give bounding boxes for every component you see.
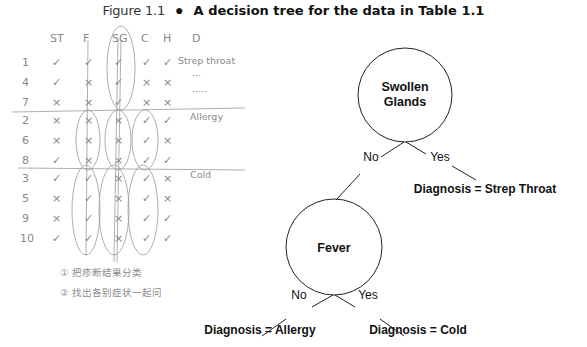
decision-tree-diagram: ST F SG C H D 1 4 7 2 6 8 3 5 9 10 ✓ ✓ ✓… bbox=[0, 0, 587, 347]
cell: × bbox=[52, 114, 61, 127]
root-edge-yes-label: Yes bbox=[430, 150, 450, 164]
row-id: 8 bbox=[22, 154, 29, 167]
cell: × bbox=[52, 134, 61, 147]
root-yes-edge-lower bbox=[452, 166, 476, 180]
cell: × bbox=[114, 232, 123, 245]
row-id: 5 bbox=[22, 192, 29, 205]
cell: ✓ bbox=[84, 232, 93, 245]
cell: ✓ bbox=[84, 172, 93, 185]
cell: ✓ bbox=[142, 232, 151, 245]
cell: × bbox=[114, 114, 123, 127]
cell: × bbox=[163, 172, 172, 185]
row-diagnosis: Allergy bbox=[190, 111, 223, 122]
note-line: ② 找出各别症状一起问 bbox=[60, 287, 162, 298]
root-yes-edge-upper bbox=[406, 142, 426, 154]
handwritten-headers: ST F SG C H D bbox=[50, 32, 200, 45]
cell: ✓ bbox=[114, 96, 123, 109]
cell: ✓ bbox=[142, 192, 151, 205]
cell: ✓ bbox=[163, 114, 172, 127]
cell: ✓ bbox=[142, 212, 151, 225]
cell: ✓ bbox=[142, 172, 151, 185]
cell: × bbox=[114, 212, 123, 225]
cell: × bbox=[142, 96, 151, 109]
header-st: ST bbox=[50, 32, 64, 45]
fever-yes-edge-upper bbox=[335, 295, 355, 307]
fever-no-edge-upper bbox=[312, 295, 333, 307]
cell: ✓ bbox=[142, 134, 151, 147]
root-node-label-line2: Glands bbox=[384, 95, 426, 109]
cell: ✓ bbox=[163, 212, 172, 225]
row-id: 3 bbox=[22, 172, 29, 185]
cell: × bbox=[163, 134, 172, 147]
root-no-edge-upper bbox=[381, 142, 404, 157]
cell: ✓ bbox=[52, 232, 61, 245]
root-edge-no-label: No bbox=[363, 150, 379, 164]
cell: ✓ bbox=[84, 56, 93, 69]
row-id: 2 bbox=[22, 114, 29, 127]
cell: × bbox=[163, 192, 172, 205]
header-sg: SG bbox=[112, 32, 128, 45]
row-id: 4 bbox=[22, 76, 29, 89]
cell: ✓ bbox=[142, 114, 151, 127]
leaf-cold: Diagnosis = Cold bbox=[369, 323, 467, 337]
fever-node-label: Fever bbox=[317, 241, 350, 255]
cell: × bbox=[52, 212, 61, 225]
leaf-strep-throat: Diagnosis = Strep Throat bbox=[414, 182, 556, 196]
cell: × bbox=[142, 76, 151, 89]
cell: × bbox=[84, 154, 93, 167]
row-diagnosis: ... bbox=[192, 67, 201, 78]
row-id: 7 bbox=[22, 96, 29, 109]
cell: × bbox=[84, 134, 93, 147]
handwritten-rows: 1 4 7 2 6 8 3 5 9 10 ✓ ✓ ✓ ✓ ✓ Strep thr… bbox=[20, 55, 235, 245]
cell: × bbox=[52, 192, 61, 205]
row-diagnosis: Strep throat bbox=[178, 55, 235, 66]
cell: ✓ bbox=[163, 232, 172, 245]
fever-edge-no-label: No bbox=[291, 288, 307, 302]
cell: × bbox=[163, 76, 172, 89]
header-d: D bbox=[192, 32, 200, 45]
cell: × bbox=[114, 172, 123, 185]
cell: ✓ bbox=[52, 56, 61, 69]
header-h: H bbox=[163, 32, 171, 45]
cell: × bbox=[84, 76, 93, 89]
row-diagnosis: ..... bbox=[192, 83, 207, 94]
leaf-allergy: Diagnosis = Allergy bbox=[204, 323, 316, 337]
cell: × bbox=[84, 96, 93, 109]
cell: ✓ bbox=[114, 56, 123, 69]
cell: × bbox=[114, 154, 123, 167]
row-id: 9 bbox=[22, 212, 29, 225]
cell: ✓ bbox=[163, 154, 172, 167]
header-c: C bbox=[141, 32, 149, 45]
cell: ✓ bbox=[52, 76, 61, 89]
cell: × bbox=[52, 96, 61, 109]
cell: × bbox=[114, 134, 123, 147]
cell: ✓ bbox=[163, 56, 172, 69]
header-f: F bbox=[83, 32, 89, 45]
cell: ✓ bbox=[84, 212, 93, 225]
note-line: ① 把疹断结果分类 bbox=[60, 267, 142, 278]
cell: × bbox=[163, 96, 172, 109]
row-id: 6 bbox=[22, 134, 29, 147]
cell: ✓ bbox=[114, 76, 123, 89]
fever-edge-yes-label: Yes bbox=[358, 288, 378, 302]
cell: ✓ bbox=[52, 154, 61, 167]
root-no-edge-lower bbox=[336, 174, 360, 200]
cell: × bbox=[114, 192, 123, 205]
cell: ✓ bbox=[52, 172, 61, 185]
row-id: 1 bbox=[22, 56, 29, 69]
row-id: 10 bbox=[20, 232, 34, 245]
cell: ✓ bbox=[142, 154, 151, 167]
root-node-label-line1: Swollen bbox=[381, 80, 428, 94]
cell: ✓ bbox=[142, 56, 151, 69]
row-diagnosis: Cold bbox=[190, 169, 211, 180]
cell: × bbox=[84, 114, 93, 127]
cell: ✓ bbox=[84, 192, 93, 205]
handwritten-notes: ① 把疹断结果分类 ② 找出各别症状一起问 bbox=[60, 267, 162, 298]
